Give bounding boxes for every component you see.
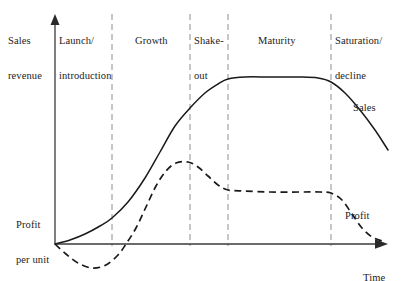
- profit-curve: [55, 162, 382, 268]
- x-axis: [55, 239, 388, 249]
- stage-label-launch-line1: Launch/: [59, 35, 112, 47]
- x-axis-label-text: Time: [363, 272, 385, 281]
- series-label-sales-text: Sales: [353, 102, 376, 114]
- series-label-profit-text: Profit: [345, 210, 370, 222]
- y-axis-label-line2: revenue: [8, 70, 42, 82]
- stage-label-launch-line2: introduction: [59, 70, 112, 82]
- series-label-sales: Sales: [353, 79, 376, 137]
- product-life-cycle-diagram: Sales revenue Profit per unit Time Launc…: [0, 0, 414, 281]
- stage-label-launch: Launch/ introduction: [59, 12, 112, 104]
- stage-label-saturation-line1: Saturation/: [335, 35, 382, 47]
- y-axis-label-sales-revenue: Sales revenue: [8, 12, 42, 104]
- stage-label-maturity-line1: Maturity: [258, 35, 296, 47]
- stage-label-shakeout: Shake- out: [194, 12, 224, 104]
- stage-label-growth-line1: Growth: [135, 35, 168, 47]
- y-axis-secondary-line1: Profit: [16, 219, 49, 231]
- stage-label-growth: Growth: [135, 12, 168, 70]
- stage-label-shakeout-line2: out: [194, 70, 224, 82]
- series-label-profit: Profit: [345, 187, 370, 245]
- stage-label-maturity: Maturity: [258, 12, 296, 70]
- x-axis-label-time: Time: [363, 249, 385, 281]
- stage-label-shakeout-line1: Shake-: [194, 35, 224, 47]
- y-axis-label-profit-per-unit: Profit per unit: [16, 196, 49, 281]
- y-axis-label-line1: Sales: [8, 35, 42, 47]
- y-axis-secondary-line2: per unit: [16, 254, 49, 266]
